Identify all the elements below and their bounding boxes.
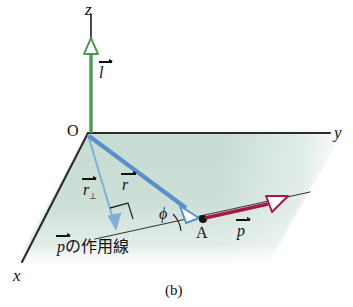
line-of-action-text: の作用線	[65, 237, 129, 256]
overarrow-r-perp	[82, 178, 96, 180]
overarrow-r	[121, 173, 136, 175]
line-of-action-label: p の作用線	[57, 239, 129, 255]
vector-p-label: p	[237, 223, 245, 239]
point-a-label: A	[196, 225, 208, 241]
overarrow-p-annotation	[56, 235, 70, 237]
origin-label: O	[67, 123, 79, 139]
angle-phi-label: ϕ	[159, 206, 167, 222]
y-axis-label: y	[334, 124, 342, 141]
vector-l-label: l	[99, 65, 103, 81]
vector-diagram-figure	[0, 0, 353, 307]
overarrow-p	[236, 219, 250, 221]
overarrow-l	[99, 61, 112, 63]
z-axis-label: z	[85, 1, 92, 18]
vector-l	[84, 38, 98, 133]
vector-r-label: r	[122, 177, 128, 193]
x-axis-label: x	[13, 267, 21, 284]
r-perp-subscript: ⊥	[89, 191, 97, 201]
vector-r-perp-label: r⊥	[83, 182, 97, 201]
figure-caption: (b)	[165, 283, 183, 298]
